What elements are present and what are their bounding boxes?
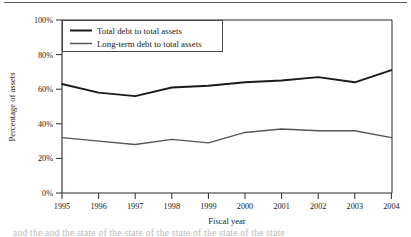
x-axis-ticks <box>62 193 391 199</box>
x-tick-label-1999: 1999 <box>200 202 216 211</box>
x-tick-label-2000: 2000 <box>237 202 253 211</box>
x-tick-label-2002: 2002 <box>310 202 326 211</box>
y-tick-label-40: 40% <box>38 120 53 129</box>
x-tick-label-2003: 2003 <box>347 202 363 211</box>
legend-label-long-term-debt: Long-term debt to total assets <box>97 39 202 49</box>
x-tick-label-1996: 1996 <box>90 202 106 211</box>
page-bottom-cut-text: and the and the state of the state of th… <box>13 228 398 237</box>
y-tick-label-0: 0% <box>42 189 53 198</box>
x-axis-title: Fiscal year <box>208 216 246 226</box>
y-axis-title: Percentage of assets <box>7 72 17 142</box>
chart-legend: Total debt to total assets Long-term deb… <box>63 21 223 52</box>
debt-ratio-line-chart: 100% 80% 60% 40% 20% 0% Percentage of as… <box>0 0 411 237</box>
y-tick-label-60: 60% <box>38 85 53 94</box>
series-line-total-debt <box>62 70 391 96</box>
y-axis-ticks <box>56 20 62 193</box>
y-tick-label-80: 80% <box>38 51 53 60</box>
x-tick-label-1995: 1995 <box>54 202 70 211</box>
x-tick-label-1997: 1997 <box>127 202 143 211</box>
x-tick-label-1998: 1998 <box>164 202 180 211</box>
series-line-long-term-debt <box>62 129 391 145</box>
y-tick-label-100: 100% <box>34 16 53 25</box>
x-tick-label-2001: 2001 <box>273 202 289 211</box>
y-tick-label-20: 20% <box>38 154 53 163</box>
legend-label-total-debt: Total debt to total assets <box>97 26 182 36</box>
figure-container: 100% 80% 60% 40% 20% 0% Percentage of as… <box>0 0 411 237</box>
x-tick-label-2004: 2004 <box>383 202 399 211</box>
